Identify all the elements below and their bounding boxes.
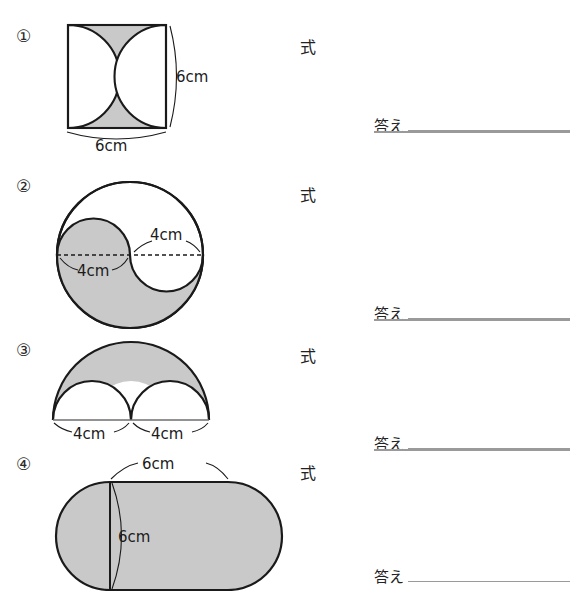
shiki-label-4: 式 (300, 466, 316, 482)
answer-label-4: 答え (374, 569, 408, 586)
shiki-label-3: 式 (300, 349, 316, 365)
answer-underline-2[interactable] (374, 319, 570, 321)
dimension-label-width-1: 6cm (95, 137, 127, 155)
figure-1-square-with-two-inward-semicircles: 6cm 6cm (52, 14, 242, 164)
figure-4-stadium-shape: 6cm 6cm (38, 452, 308, 591)
figure-3-semicircle-minus-two-semicircles: 4cm 4cm (44, 340, 244, 450)
shiki-label-1: 式 (300, 40, 316, 56)
answer-underline-3[interactable] (374, 449, 570, 451)
stadium-shaded-region (56, 482, 282, 590)
dimension-label-height-4: 6cm (118, 528, 150, 546)
leader-arc-top-4b (206, 463, 228, 479)
answer-rule-4[interactable] (408, 580, 570, 582)
dimension-label-left-3: 4cm (73, 425, 105, 443)
worksheet-page: ① 6cm 6cm 式 答え ② (0, 0, 570, 591)
problem-number-3: ③ (16, 342, 31, 359)
problem-number-4: ④ (16, 456, 31, 473)
leader-arc-right-3a (133, 423, 150, 432)
dimension-label-left-2: 4cm (77, 262, 109, 280)
leader-arc-top-4a (111, 463, 138, 479)
shiki-label-2: 式 (300, 188, 316, 204)
figure-2-yin-yang-circle: 4cm 4cm (50, 178, 260, 338)
answer-block-4[interactable]: 答え (374, 563, 570, 585)
dimension-label-right-3: 4cm (151, 425, 183, 443)
dimension-label-width-4: 6cm (142, 455, 174, 473)
dimension-label-height-1: 6cm (176, 68, 208, 86)
problem-number-1: ① (16, 28, 31, 45)
problem-number-2: ② (16, 178, 31, 195)
leader-arc-left-3b (114, 423, 129, 432)
dimension-label-right-2: 4cm (150, 226, 182, 244)
answer-underline-1[interactable] (374, 131, 570, 133)
leader-arc-left-3a (54, 423, 72, 432)
leader-arc-right-3b (192, 423, 208, 432)
